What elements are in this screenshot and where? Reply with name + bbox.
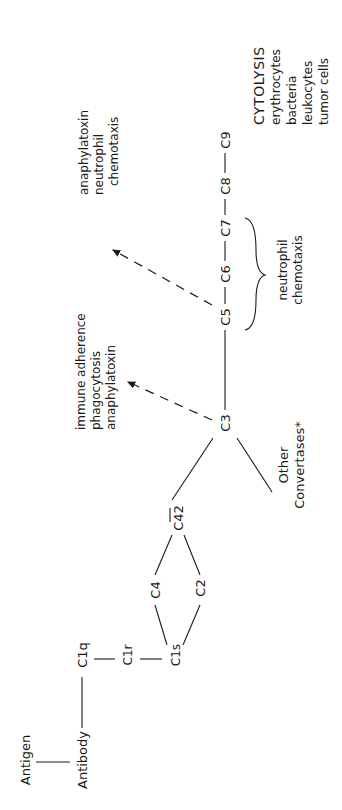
edge-c2-c42 xyxy=(184,535,200,575)
brace-c567 xyxy=(245,218,265,330)
node-antigen: Antigen xyxy=(18,735,33,785)
node-c1q: C1q xyxy=(75,642,90,668)
complement-pathway-diagram: Antigen Antibody C1q C1r C1s C4 C2 C42 C… xyxy=(0,0,342,810)
edge-c4-c42 xyxy=(155,535,172,575)
node-c2: C2 xyxy=(193,579,208,596)
c5-effect-neutrophil: neutrophil xyxy=(92,134,106,195)
node-c4: C4 xyxy=(148,581,163,598)
diagram-canvas: Antigen Antibody C1q C1r C1s C4 C2 C42 C… xyxy=(0,0,342,810)
c3-effect-phagocytosis: phagocytosis xyxy=(89,351,103,430)
c3-effect-anaphylatoxin: anaphylatoxin xyxy=(104,345,118,430)
cytolysis-target-tumor-cells: tumor cells xyxy=(317,58,331,125)
edge-other-c3 xyxy=(237,438,272,492)
edge-c1s-c2 xyxy=(183,605,200,645)
node-c5: C5 xyxy=(218,308,233,325)
cytolysis-heading: CYTOLYSIS xyxy=(251,46,267,125)
cytolysis-target-leukocytes: leukocytes xyxy=(301,61,315,125)
c567-effect-neutrophil: neutrophil xyxy=(276,239,290,300)
arrow-c5-effects xyxy=(113,250,212,305)
c5-effect-anaphylatoxin: anaphylatoxin xyxy=(77,110,91,195)
node-c7: C7 xyxy=(218,219,233,236)
node-antibody: Antibody xyxy=(75,731,90,789)
c567-effect-chemotaxis: chemotaxis xyxy=(291,235,305,304)
c3-effect-immune-adherence: immune adherence xyxy=(74,313,88,430)
cytolysis-target-bacteria: bacteria xyxy=(285,76,299,125)
c5-effect-chemotaxis: chemotaxis xyxy=(107,117,121,186)
edge-c42-c3 xyxy=(172,438,213,500)
node-c3: C3 xyxy=(218,414,233,431)
node-c9: C9 xyxy=(218,131,233,148)
node-c1r: C1r xyxy=(121,644,135,665)
node-c42: C42 xyxy=(171,505,186,531)
edge-c1s-c4 xyxy=(155,605,167,645)
node-c8: C8 xyxy=(218,177,233,194)
node-other-line1: Other xyxy=(276,446,291,484)
cytolysis-target-erythrocytes: erythrocytes xyxy=(269,49,283,125)
node-other-line2: Convertases* xyxy=(292,421,307,509)
node-c6: C6 xyxy=(218,265,233,282)
node-c1s: C1s xyxy=(169,644,183,666)
arrow-c3-effects xyxy=(128,382,212,420)
